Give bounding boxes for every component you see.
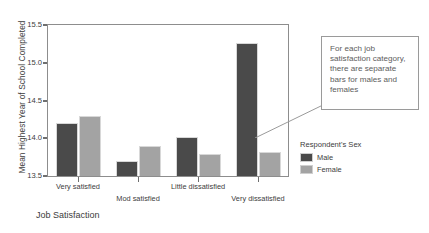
x-tick-label: Little dissatisfied [171, 182, 225, 191]
bar-male-2 [176, 137, 198, 176]
bar-female-3 [259, 152, 281, 176]
x-tick-mark [138, 177, 139, 182]
y-tick-label: 15.0 [27, 58, 42, 68]
bar-male-1 [116, 161, 138, 176]
bar-female-0 [79, 116, 101, 176]
y-axis-ticks: 13.514.014.515.015.5 [0, 0, 47, 233]
y-tick-label: 13.5 [27, 171, 42, 181]
callout-box: For each job satisfaction category, ther… [321, 36, 419, 110]
bar-female-1 [139, 146, 161, 176]
x-tick-label: Mod satisfied [116, 194, 160, 203]
legend-item-female: Female [300, 165, 420, 174]
y-tick-label: 15.5 [27, 20, 42, 30]
y-tick-label: 14.5 [27, 96, 42, 106]
bar-male-0 [56, 123, 78, 176]
legend-swatch-female [300, 165, 313, 174]
legend-swatch-male [300, 153, 313, 162]
legend-item-male: Male [300, 153, 420, 162]
bar-female-2 [199, 154, 221, 176]
legend-label-male: Male [317, 153, 333, 162]
bar-male-3 [236, 43, 258, 176]
y-tick-label: 14.0 [27, 133, 42, 143]
legend-title: Respondent's Sex [300, 140, 420, 149]
bars-layer [48, 25, 288, 176]
x-tick-label: Very satisfied [56, 182, 100, 191]
x-tick-mark [258, 177, 259, 182]
callout-text: For each job satisfaction category, ther… [330, 44, 411, 95]
legend: Respondent's Sex Male Female [300, 140, 420, 177]
x-axis-title: Job Satisfaction [36, 210, 100, 220]
legend-label-female: Female [317, 165, 342, 174]
x-tick-label: Very dissatisfied [231, 194, 284, 203]
